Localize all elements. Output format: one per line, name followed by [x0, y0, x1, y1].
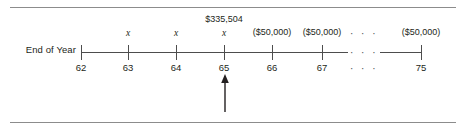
tick-year-75	[421, 45, 422, 60]
unknown-marker-year-63: x	[126, 28, 130, 38]
cash-flow-label-year-66: ($50,000)	[253, 27, 292, 37]
top-divider	[10, 7, 456, 8]
year-label-ellipsis: · · ·	[350, 64, 378, 74]
year-label-63: 63	[123, 62, 134, 73]
future-value-label: $335,504	[205, 14, 243, 24]
axis-ellipsis: · · ·	[350, 48, 378, 58]
tick-year-67	[322, 45, 323, 60]
bottom-divider	[10, 122, 456, 123]
tick-year-62	[81, 45, 82, 60]
year-label-67: 67	[317, 62, 328, 73]
unknown-marker-year-65: x	[222, 28, 226, 38]
unknown-marker-year-64: x	[174, 28, 178, 38]
cash-flow-label-year-75: ($50,000)	[402, 27, 441, 37]
tick-year-63	[128, 45, 129, 60]
cash-flow-label-year-67: ($50,000)	[303, 27, 342, 37]
timeline-axis-segment-main	[81, 52, 348, 53]
tick-year-64	[176, 45, 177, 60]
tick-year-66	[272, 45, 273, 60]
year-label-62: 62	[76, 62, 87, 73]
axis-caption-end-of-year: End of Year	[18, 44, 76, 55]
year-label-65: 65	[219, 62, 230, 73]
year-label-75: 75	[416, 62, 427, 73]
tick-year-65	[224, 45, 225, 60]
year-label-66: 66	[267, 62, 278, 73]
cash-flow-label-ellipsis: · · ·	[350, 29, 378, 39]
year-label-64: 64	[171, 62, 182, 73]
timeline-axis-segment-tail	[380, 52, 421, 53]
up-arrow-icon	[217, 74, 233, 112]
timeline-figure: End of Year 62 63 64 65 66 67 · · · 75 x…	[0, 0, 466, 134]
